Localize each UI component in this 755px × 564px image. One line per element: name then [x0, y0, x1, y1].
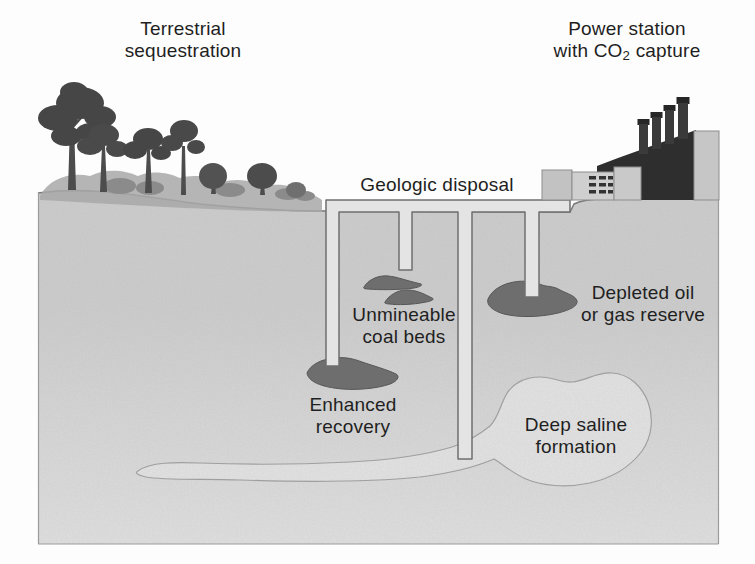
sequestration-diagram: Terrestrial sequestration Power station … [0, 0, 755, 564]
power-station-chimney-3 [665, 110, 674, 144]
power-station-chimney-cap-4 [677, 97, 690, 104]
deep-saline-line2: formation [525, 436, 628, 458]
power-station-mid-block [614, 167, 641, 200]
power-station-line1: Power station [554, 18, 701, 40]
small-bush [286, 182, 306, 198]
enhanced-recovery-line2: recovery [309, 416, 396, 438]
label-depleted-oil-gas: Depleted oil or gas reserve [581, 282, 705, 326]
label-deep-saline-formation: Deep saline formation [525, 414, 628, 458]
terrestrial-line1: Terrestrial [125, 18, 242, 40]
coal-beds-line2: coal beds [352, 326, 455, 348]
deep-saline-line1: Deep saline [525, 414, 628, 436]
power-station-chimney-1 [639, 124, 648, 154]
terrestrial-line2: sequestration [125, 40, 242, 62]
geologic-disposal-text: Geologic disposal [360, 174, 513, 196]
label-unmineable-coal-beds: Unmineable coal beds [352, 304, 455, 348]
power-station-front-block-left [542, 170, 572, 200]
power-station-right-block [694, 131, 719, 200]
enhanced-recovery-line1: Enhanced [309, 394, 396, 416]
power-station-line2: with CO2 capture [554, 40, 701, 62]
coal-beds-line1: Unmineable [352, 304, 455, 326]
power-station-chimney-4 [678, 103, 688, 139]
depleted-oil-line2: or gas reserve [581, 304, 705, 326]
label-geologic-disposal: Geologic disposal [360, 174, 513, 196]
label-power-station: Power station with CO2 capture [554, 18, 701, 62]
label-terrestrial-sequestration: Terrestrial sequestration [125, 18, 242, 62]
power-station-windows [589, 176, 613, 194]
power-station-chimney-2 [652, 117, 661, 149]
label-enhanced-recovery: Enhanced recovery [309, 394, 396, 438]
depleted-oil-line1: Depleted oil [581, 282, 705, 304]
